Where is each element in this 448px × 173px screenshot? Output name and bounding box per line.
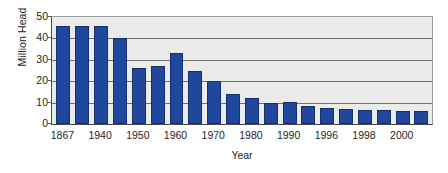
y-tick-label: 20 <box>22 75 48 85</box>
x-tick-label: 1970 <box>202 129 225 141</box>
bar <box>396 111 410 124</box>
bar <box>188 71 202 125</box>
bar <box>414 111 428 124</box>
bar <box>226 94 240 124</box>
bar <box>170 53 184 124</box>
bar <box>113 38 127 124</box>
x-tick-label: 1950 <box>126 129 149 141</box>
y-tick-label: 0 <box>22 118 48 128</box>
y-tick-label: 10 <box>22 97 48 107</box>
bar <box>320 108 334 124</box>
x-axis-tick-labels: 1867194019501960197019801990199619982000 <box>51 126 433 142</box>
x-tick-label: 1998 <box>352 129 375 141</box>
plot-area <box>51 16 433 125</box>
y-tick-label: 40 <box>22 32 48 42</box>
x-tick-label: 2000 <box>390 129 413 141</box>
bar <box>377 110 391 124</box>
bar <box>151 66 165 124</box>
bar <box>264 103 278 124</box>
x-tick-label: 1867 <box>51 129 74 141</box>
bar <box>207 81 221 124</box>
y-axis-tick-labels: 01020304050 <box>22 10 48 127</box>
bar <box>132 68 146 124</box>
bar <box>358 110 372 124</box>
bar <box>301 106 315 124</box>
bar <box>245 98 259 124</box>
bar <box>339 109 353 124</box>
bar <box>56 26 70 124</box>
x-axis-title: Year <box>51 149 433 161</box>
x-tick-label: 1980 <box>239 129 262 141</box>
bar <box>75 26 89 124</box>
bar <box>283 102 297 124</box>
y-tick-label: 30 <box>22 54 48 64</box>
x-tick-label: 1990 <box>277 129 300 141</box>
bars-container <box>52 17 432 124</box>
x-tick-label: 1940 <box>88 129 111 141</box>
y-tick-label: 50 <box>22 11 48 21</box>
x-tick-label: 1996 <box>315 129 338 141</box>
bar <box>94 26 108 124</box>
bar-chart-figure: Million Head 01020304050 186719401950196… <box>0 0 448 173</box>
x-tick-label: 1960 <box>164 129 187 141</box>
